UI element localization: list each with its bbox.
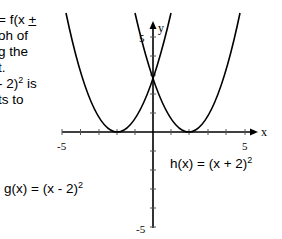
y-axis-arrow-icon (150, 21, 157, 29)
y-tick-label-min: -5 (136, 223, 146, 235)
y-tick-label-max: 5 (139, 32, 145, 44)
x-axis-label: x (261, 125, 267, 139)
y-axis-label: y (158, 21, 164, 35)
equation-h: h(x) = (x + 2)2 (170, 156, 252, 171)
coordinate-plane: -5 5 5 -5 x y (0, 0, 282, 239)
curve-h (66, 13, 171, 132)
x-tick-label-max: 5 (242, 140, 248, 152)
curve-g (135, 13, 240, 132)
x-tick-label-min: -5 (57, 140, 67, 152)
equation-g: g(x) = (x - 2)2 (4, 181, 83, 196)
x-axis-arrow-icon (250, 129, 258, 136)
